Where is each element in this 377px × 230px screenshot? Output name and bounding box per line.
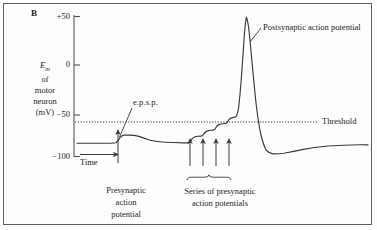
postsynaptic-leader-line (250, 28, 261, 42)
figure-panel-b: B +50 0 −50 −100 Emofmotorneuron(mV) Tim… (0, 0, 377, 230)
plot-svg (0, 0, 377, 230)
series-brace (187, 175, 231, 180)
epsp-leader-line (120, 108, 133, 137)
